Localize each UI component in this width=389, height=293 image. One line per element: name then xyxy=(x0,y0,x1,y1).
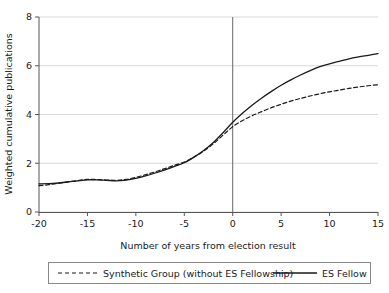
y-tick-label: 8 xyxy=(26,11,32,22)
y-tick-label: 6 xyxy=(26,60,32,71)
x-tick-label: -5 xyxy=(180,218,189,229)
x-tick-label: -20 xyxy=(31,218,47,229)
x-tick-label: -10 xyxy=(128,218,144,229)
x-tick-label: 15 xyxy=(372,218,384,229)
x-tick-label: 5 xyxy=(278,218,284,229)
x-tick-label: -15 xyxy=(80,218,96,229)
line-chart: 02468 -20-15-10-5051015 Weighted cumulat… xyxy=(0,0,389,293)
legend-label-es-fellow: ES Fellow xyxy=(322,268,367,279)
y-tick-label: 2 xyxy=(26,158,32,169)
x-tick-label: 10 xyxy=(324,218,336,229)
y-tick-label: 4 xyxy=(26,109,32,120)
legend-label-synthetic-group: Synthetic Group (without ES Fellowship) xyxy=(103,268,293,279)
legend: Synthetic Group (without ES Fellowship) … xyxy=(49,263,371,284)
x-tick-label: 0 xyxy=(230,218,236,229)
y-axis-label: Weighted cumulative publications xyxy=(3,33,14,194)
chart-figure: 02468 -20-15-10-5051015 Weighted cumulat… xyxy=(0,0,389,293)
y-tick-label: 0 xyxy=(26,206,32,217)
x-axis-label: Number of years from election result xyxy=(120,240,296,251)
